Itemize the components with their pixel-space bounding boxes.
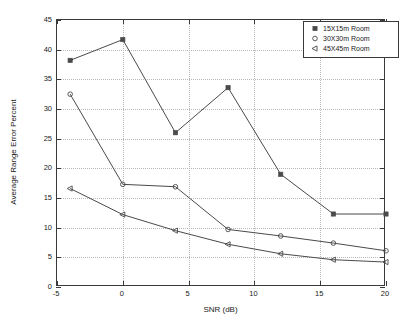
data-point-marker xyxy=(331,212,335,216)
x-tick-label: 10 xyxy=(249,289,257,298)
legend-marker-icon xyxy=(307,44,323,53)
legend-label: 45X45m Room xyxy=(323,44,370,53)
data-point-marker xyxy=(313,26,317,30)
y-tick-label: 40 xyxy=(34,44,52,53)
y-tick-label: 5 xyxy=(34,252,52,261)
y-tick-label: 10 xyxy=(34,222,52,231)
x-tick-label: 5 xyxy=(186,289,190,298)
legend-label: 30X30m Room xyxy=(323,34,370,43)
x-tick-label: 0 xyxy=(120,289,124,298)
y-axis-title: Average Range Error Percent xyxy=(9,99,18,204)
figure: Average Range Error Percent SNR (dB) 051… xyxy=(0,0,405,329)
data-point-marker xyxy=(68,92,73,97)
y-axis-tick xyxy=(380,287,385,288)
legend-item-3[interactable]: 45X45m Room xyxy=(307,44,395,53)
x-tick-label: 20 xyxy=(381,289,389,298)
data-point-marker xyxy=(121,37,125,41)
data-point-marker xyxy=(67,186,72,191)
x-tick-label: 15 xyxy=(315,289,323,298)
y-tick-label: 0 xyxy=(34,282,52,291)
series-line xyxy=(70,40,386,214)
x-axis-title: SNR (dB) xyxy=(56,305,385,314)
y-tick-label: 20 xyxy=(34,163,52,172)
series-3 xyxy=(67,186,388,265)
legend-marker-icon xyxy=(307,24,323,33)
data-point-marker xyxy=(313,36,318,41)
y-tick-label: 45 xyxy=(34,15,52,24)
series-2 xyxy=(68,92,388,253)
y-tick-label: 30 xyxy=(34,104,52,113)
legend-marker-icon xyxy=(307,34,323,43)
data-point-marker xyxy=(312,46,317,51)
data-point-marker xyxy=(226,86,230,90)
data-point-marker xyxy=(384,212,388,216)
series-canvas xyxy=(57,20,384,285)
legend-label: 15X15m Room xyxy=(323,24,370,33)
x-tick-label: -5 xyxy=(53,289,60,298)
data-point-marker xyxy=(173,131,177,135)
data-point-marker xyxy=(279,172,283,176)
data-point-marker xyxy=(68,58,72,62)
legend-item-2[interactable]: 30X30m Room xyxy=(307,34,395,43)
y-tick-label: 25 xyxy=(34,133,52,142)
series-line xyxy=(70,189,386,263)
data-series-layer xyxy=(57,20,384,285)
y-tick-label: 35 xyxy=(34,74,52,83)
legend-item-1[interactable]: 15X15m Room xyxy=(307,24,395,33)
series-1 xyxy=(68,37,388,216)
x-axis-tick xyxy=(386,281,387,286)
legend[interactable]: 15X15m Room30X30m Room45X45m Room xyxy=(303,21,399,58)
y-axis-tick xyxy=(56,287,61,288)
y-tick-label: 15 xyxy=(34,193,52,202)
plot-area xyxy=(56,19,385,286)
